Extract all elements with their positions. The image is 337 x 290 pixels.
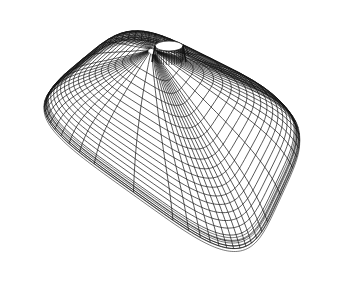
mesh-radial xyxy=(154,55,227,248)
wireframe-figure xyxy=(0,0,337,290)
apex-opening xyxy=(152,41,186,65)
opening-rim xyxy=(155,41,183,51)
mesh-radial xyxy=(154,55,234,249)
wireframe-mesh xyxy=(0,0,337,290)
